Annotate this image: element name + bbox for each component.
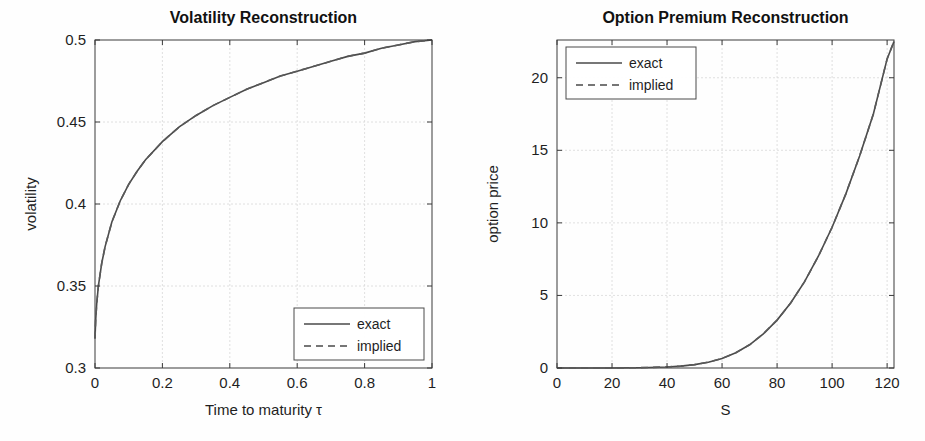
x-tick-label: 40: [659, 374, 676, 391]
x-tick-label: 80: [769, 374, 786, 391]
x-tick-label: 0: [91, 374, 99, 391]
y-tick-label: 0.3: [65, 359, 86, 376]
x-tick-label: 0: [553, 374, 561, 391]
figure-canvas: Volatility Reconstruction00.20.40.60.810…: [0, 0, 925, 441]
x-tick-label: 0.8: [354, 374, 375, 391]
series-line-implied: [95, 40, 432, 338]
y-tick-label: 0.5: [65, 31, 86, 48]
y-tick-label: 5: [540, 286, 548, 303]
x-axis-title: Time to maturity τ: [205, 401, 322, 418]
chart-panel-option-premium: Option Premium Reconstruction02040608010…: [462, 0, 924, 441]
x-tick-label: 0.6: [287, 374, 308, 391]
x-axis-title: S: [720, 401, 730, 418]
series-line-exact: [95, 40, 432, 338]
chart-svg-option-premium-reconstruction: Option Premium Reconstruction02040608010…: [462, 0, 924, 441]
x-tick-label: 0.2: [152, 374, 173, 391]
y-tick-label: 15: [531, 141, 548, 158]
legend: exactimplied: [566, 47, 696, 99]
legend-label-implied: implied: [629, 77, 673, 93]
chart-svg-volatility-reconstruction: Volatility Reconstruction00.20.40.60.810…: [0, 0, 462, 441]
chart-panel-volatility: Volatility Reconstruction00.20.40.60.810…: [0, 0, 462, 441]
x-tick-label: 20: [604, 374, 621, 391]
y-tick-label: 20: [531, 69, 548, 86]
chart-title: Option Premium Reconstruction: [602, 9, 848, 26]
x-tick-label: 0.4: [219, 374, 240, 391]
y-tick-label: 0.4: [65, 195, 86, 212]
chart-title: Volatility Reconstruction: [170, 9, 357, 26]
y-axis-title: volatility: [22, 177, 39, 231]
y-axis-title: option price: [484, 165, 501, 243]
legend-label-exact: exact: [629, 55, 663, 71]
y-tick-label: 10: [531, 214, 548, 231]
legend: exactimplied: [294, 308, 424, 360]
y-tick-label: 0: [540, 359, 548, 376]
y-tick-label: 0.35: [57, 277, 86, 294]
y-tick-label: 0.45: [57, 113, 86, 130]
x-tick-label: 120: [875, 374, 900, 391]
x-tick-label: 100: [820, 374, 845, 391]
x-tick-label: 60: [714, 374, 731, 391]
legend-label-exact: exact: [357, 316, 391, 332]
legend-label-implied: implied: [357, 338, 401, 354]
x-tick-label: 1: [428, 374, 436, 391]
